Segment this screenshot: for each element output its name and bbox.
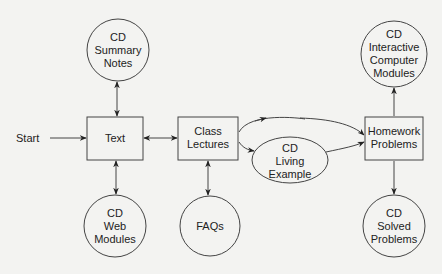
start-label: Start — [16, 132, 39, 144]
node-faqs: FAQs — [196, 220, 224, 233]
edge-lectures-homework — [239, 117, 305, 132]
node-web-modules: CD Web Modules — [94, 207, 136, 246]
edge-lectures-living — [239, 142, 254, 151]
edge-living-homework — [326, 142, 364, 152]
node-text: Text — [105, 132, 125, 145]
node-class-lectures: Class Lectures — [187, 125, 229, 151]
node-homework-problems: Homework Problems — [368, 125, 421, 151]
node-summary-notes: CD Summary Notes — [94, 31, 141, 70]
node-interactive-modules: CD Interactive Computer Modules — [369, 28, 420, 80]
edge-lectures-homework-end — [300, 118, 364, 135]
node-solved-problems: CD Solved Problems — [371, 207, 417, 246]
node-living-example: CD Living Example — [269, 142, 312, 181]
